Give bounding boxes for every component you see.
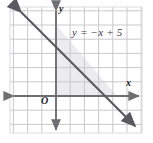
origin-label: O [41,95,48,106]
y-axis-label: y [59,3,63,14]
coordinate-plane-figure: y = −x + 5 x y O [0,0,153,143]
graph-canvas [0,0,153,143]
x-axis-label: x [126,77,131,88]
equation-label: y = −x + 5 [72,26,123,38]
